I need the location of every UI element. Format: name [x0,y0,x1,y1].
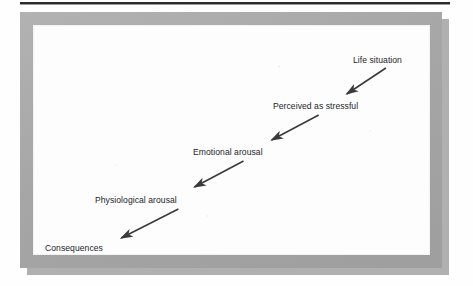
node-label-perceived-as-stressful: Perceived as stressful [273,101,358,111]
arrow-life-to-perceived [347,68,386,94]
node-label-life-situation: Life situation [353,55,402,65]
diagram-canvas: Life situation Perceived as stressful Em… [33,25,430,255]
arrow-emotional-to-physiological [194,161,243,187]
node-label-consequences: Consequences [45,243,103,253]
node-label-physiological-arousal: Physiological arousal [95,195,177,205]
figure-frame: Life situation Perceived as stressful Em… [20,12,442,268]
figure-page: Life situation Perceived as stressful Em… [0,0,473,286]
arrow-physiological-to-consequences [121,209,178,238]
node-label-emotional-arousal: Emotional arousal [193,147,263,157]
arrow-perceived-to-emotional [272,115,319,140]
page-top-rule-shadow [20,4,450,5]
